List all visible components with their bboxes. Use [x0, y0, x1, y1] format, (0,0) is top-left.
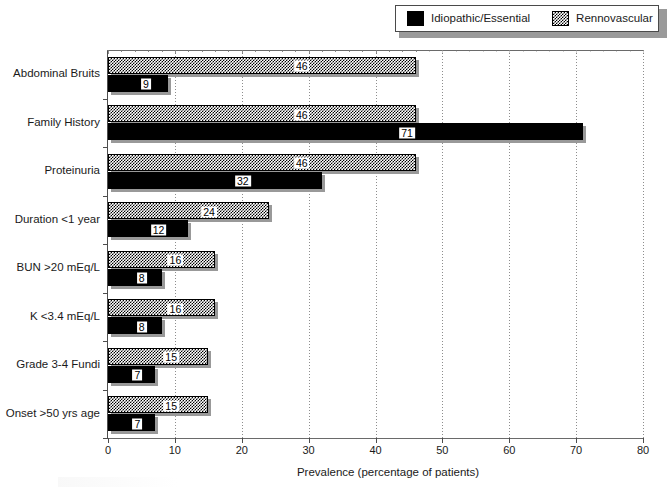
x-tick-label: 40	[369, 445, 381, 456]
x-tick-label: 30	[303, 445, 315, 456]
bar-rennovascular	[108, 299, 215, 316]
bar-value-label: 12	[151, 224, 167, 235]
y-tick	[103, 293, 108, 294]
bar-value-label: 32	[235, 176, 251, 187]
x-tick-minor	[269, 50, 270, 52]
x-tick-minor	[389, 50, 390, 52]
bar-rennovascular	[108, 105, 416, 122]
bar-rennovascular	[108, 202, 269, 219]
x-tick-label: 20	[236, 445, 248, 456]
legend-swatch-rennovascular-icon	[552, 11, 569, 26]
x-tick-minor	[148, 50, 149, 52]
page-artifact	[58, 477, 178, 487]
x-tick-minor	[121, 50, 122, 52]
bar-idiopathic	[108, 366, 155, 383]
bar-rennovascular	[108, 57, 416, 74]
legend-label-idiopathic: Idiopathic/Essential	[431, 13, 530, 25]
bar-chart: Idiopathic/Essential Rennovascular 46946…	[0, 0, 672, 494]
x-tick-minor	[576, 50, 577, 54]
plot-area: 469467146322412168168157157	[108, 50, 643, 438]
x-tick	[509, 438, 510, 443]
category-label: K <3.4 mEq/L	[0, 311, 100, 323]
x-tick-minor	[469, 50, 470, 52]
bar-idiopathic	[108, 172, 322, 189]
bar-value-label: 46	[294, 109, 310, 120]
bar-rennovascular	[108, 251, 215, 268]
x-tick-minor	[376, 50, 377, 54]
bar-rennovascular	[108, 348, 208, 365]
x-tick-minor	[322, 50, 323, 52]
bar-value-label: 71	[399, 127, 415, 138]
bar-value-label: 15	[163, 352, 179, 363]
x-axis-title: Prevalence (percentage of patients)	[297, 466, 479, 478]
bar-idiopathic	[108, 123, 583, 140]
x-tick-minor	[563, 50, 564, 52]
x-tick-minor	[603, 50, 604, 52]
x-tick-label: 60	[503, 445, 515, 456]
bar-value-label: 46	[294, 61, 310, 72]
x-tick-minor	[549, 50, 550, 52]
bar-value-label: 16	[168, 303, 184, 314]
bar-value-label: 8	[137, 273, 147, 284]
x-tick-minor	[295, 50, 296, 52]
x-tick-minor	[429, 50, 430, 52]
bar-idiopathic	[108, 220, 188, 237]
x-tick-minor	[162, 50, 163, 52]
y-tick	[103, 341, 108, 342]
x-tick-minor	[536, 50, 537, 52]
category-label: Family History	[0, 117, 100, 129]
x-tick-minor	[402, 50, 403, 52]
bar-value-label: 16	[168, 255, 184, 266]
y-tick	[103, 99, 108, 100]
x-tick-minor	[496, 50, 497, 52]
legend-entry-idiopathic: Idiopathic/Essential	[407, 11, 530, 26]
x-tick-minor	[309, 50, 310, 54]
x-tick	[576, 438, 577, 443]
bar-value-label: 9	[141, 79, 151, 90]
legend-label-rennovascular: Rennovascular	[576, 13, 653, 25]
x-tick-label: 80	[637, 445, 649, 456]
y-tick	[103, 390, 108, 391]
x-tick-minor	[215, 50, 216, 52]
gridline	[509, 50, 510, 438]
x-tick-minor	[509, 50, 510, 54]
bar-idiopathic	[108, 75, 168, 92]
legend-entry-rennovascular: Rennovascular	[552, 11, 653, 26]
x-tick-minor	[442, 50, 443, 54]
x-tick-minor	[349, 50, 350, 52]
x-tick	[242, 438, 243, 443]
category-label: Abdominal Bruits	[0, 68, 100, 80]
x-tick	[376, 438, 377, 443]
x-tick-minor	[416, 50, 417, 52]
x-tick-minor	[175, 50, 176, 54]
x-tick-minor	[456, 50, 457, 52]
category-label: Proteinuria	[0, 165, 100, 177]
category-label: Grade 3-4 Fundi	[0, 359, 100, 371]
bar-value-label: 7	[133, 370, 143, 381]
bar-value-label: 46	[294, 158, 310, 169]
bar-idiopathic	[108, 269, 162, 286]
x-tick-minor	[228, 50, 229, 52]
x-tick-minor	[282, 50, 283, 52]
y-tick	[103, 244, 108, 245]
bar-value-label: 7	[133, 418, 143, 429]
category-label: Duration <1 year	[0, 214, 100, 226]
x-tick-label: 50	[436, 445, 448, 456]
x-tick	[175, 438, 176, 443]
bar-value-label: 24	[201, 206, 217, 217]
x-tick-minor	[255, 50, 256, 52]
chart-legend: Idiopathic/Essential Rennovascular	[395, 5, 659, 32]
x-tick-minor	[335, 50, 336, 52]
bar-rennovascular	[108, 396, 208, 413]
gridline	[576, 50, 577, 438]
x-tick-minor	[523, 50, 524, 52]
bar-idiopathic	[108, 317, 162, 334]
bar-value-label: 15	[163, 400, 179, 411]
gridline	[442, 50, 443, 438]
bar-value-label: 8	[137, 321, 147, 332]
x-tick-minor	[616, 50, 617, 52]
gridline	[643, 50, 644, 438]
x-tick	[643, 438, 644, 443]
y-tick	[103, 196, 108, 197]
x-tick-minor	[202, 50, 203, 52]
